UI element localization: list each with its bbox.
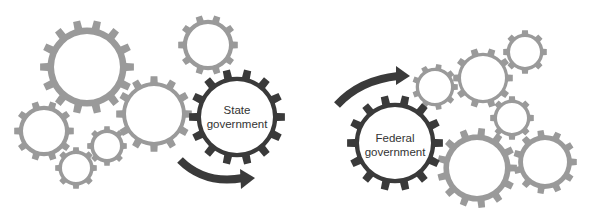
gear-icon — [87, 126, 127, 166]
left-gear-cluster — [14, 16, 238, 189]
state-government-label: State government — [207, 103, 268, 131]
federal-label-line1: Federal — [365, 131, 426, 145]
gear-icon — [490, 96, 534, 140]
gear-icon — [438, 128, 517, 208]
federal-arrow-head-icon — [396, 66, 410, 85]
federal-government-label: Federal government — [365, 131, 426, 159]
gear-icon — [514, 130, 577, 194]
gear-icon — [178, 16, 238, 75]
state-label-line2: government — [207, 117, 268, 131]
gear-icon — [40, 21, 134, 114]
gear-icon — [14, 102, 74, 161]
gears-canvas — [0, 0, 589, 217]
state-label-line1: State — [207, 103, 268, 117]
gear-icon — [453, 49, 513, 108]
state-arrow-icon — [180, 160, 243, 180]
right-gear-cluster — [413, 30, 577, 208]
gear-icon — [413, 64, 458, 110]
federal-label-line2: government — [365, 145, 426, 159]
state-arrow-head-icon — [240, 169, 255, 189]
gear-icon — [55, 147, 97, 189]
gear-icon — [503, 30, 547, 74]
gears-diagram: State government Federal government — [0, 0, 589, 217]
